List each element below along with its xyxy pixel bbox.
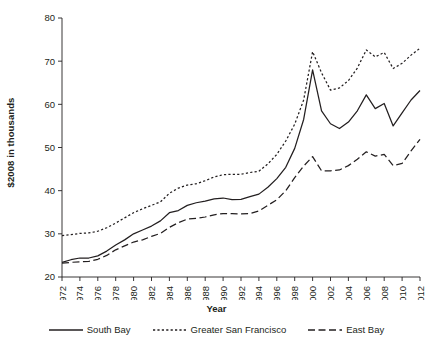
legend-swatch-solid-icon bbox=[49, 325, 83, 334]
legend-swatch-dashed-icon bbox=[308, 325, 342, 334]
x-axis-tick-label: 1994 bbox=[253, 286, 264, 300]
y-axis-tick-label: 30 bbox=[44, 228, 55, 239]
x-axis-tick-label: 1986 bbox=[182, 286, 193, 300]
x-axis-tick-label: 2000 bbox=[307, 286, 318, 300]
x-axis-tick-label: 2002 bbox=[325, 286, 336, 300]
legend-label: Greater San Francisco bbox=[191, 325, 287, 335]
y-axis-tick-label: 80 bbox=[44, 12, 55, 23]
x-axis-tick-label: 1998 bbox=[289, 286, 300, 300]
x-axis-tick-label: 1974 bbox=[74, 286, 85, 300]
legend-item-greater-san-francisco[interactable]: Greater San Francisco bbox=[153, 325, 287, 335]
legend-item-south-bay[interactable]: South Bay bbox=[49, 325, 131, 335]
x-axis-tick-label: 1988 bbox=[200, 286, 211, 300]
x-axis-title: Year bbox=[0, 303, 433, 314]
x-axis-tick-label: 1976 bbox=[92, 286, 103, 300]
x-axis-tick-label: 1980 bbox=[128, 286, 139, 300]
x-axis-tick-label: 2008 bbox=[379, 286, 390, 300]
y-axis-tick-label: 50 bbox=[44, 142, 55, 153]
x-axis-tick-label: 1990 bbox=[218, 286, 229, 300]
y-axis-tick-label: 40 bbox=[44, 185, 55, 196]
y-axis-tick-label: 20 bbox=[44, 271, 55, 282]
legend-item-east-bay[interactable]: East Bay bbox=[308, 325, 384, 335]
y-axis-tick-label: 60 bbox=[44, 99, 55, 110]
chart-legend: South BayGreater San FranciscoEast Bay bbox=[0, 325, 433, 335]
legend-swatch-dotted-icon bbox=[153, 325, 187, 334]
x-axis-tick-label: 2012 bbox=[415, 286, 426, 300]
legend-label: East Bay bbox=[346, 325, 384, 335]
x-axis-tick-label: 1996 bbox=[271, 286, 282, 300]
y-axis-tick-label: 70 bbox=[44, 56, 55, 67]
series-line-south-bay bbox=[62, 70, 420, 263]
x-axis-tick-label: 1978 bbox=[110, 286, 121, 300]
x-axis-tick-label: 1982 bbox=[146, 286, 157, 300]
legend-label: South Bay bbox=[87, 325, 131, 335]
x-axis-tick-label: 1972 bbox=[57, 286, 68, 300]
plot-area: 2030405060708019721974197619781980198219… bbox=[0, 0, 433, 300]
x-axis-tick-label: 2006 bbox=[361, 286, 372, 300]
x-axis-tick-label: 1984 bbox=[164, 286, 175, 300]
x-axis-tick-label: 2010 bbox=[397, 286, 408, 300]
line-chart: $2008 in thousands 203040506070801972197… bbox=[0, 0, 433, 348]
x-axis-tick-label: 2004 bbox=[343, 286, 354, 300]
x-axis-tick-label: 1992 bbox=[236, 286, 247, 300]
series-line-greater-san-francisco bbox=[62, 48, 420, 235]
